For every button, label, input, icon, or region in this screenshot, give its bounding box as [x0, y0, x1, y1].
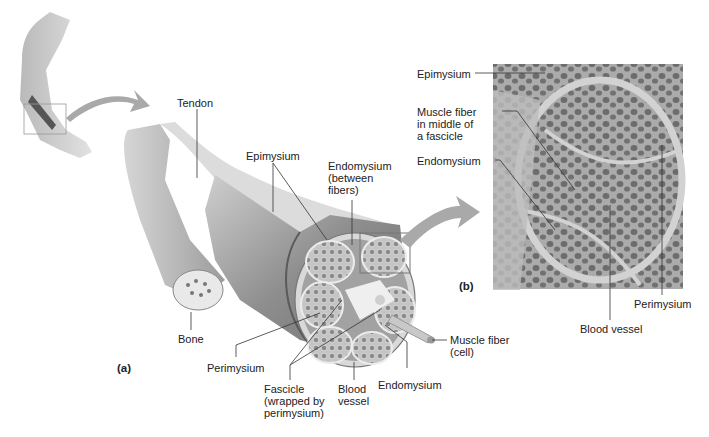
- label-epimysium-b: Epimysium: [417, 68, 471, 80]
- label-muscle-fiber-cell: Muscle fiber (cell): [450, 334, 509, 358]
- arrow-to-detail: [66, 90, 150, 122]
- label-endomysium-b: Endomysium: [417, 155, 481, 167]
- label-blood-vessel-a: Blood vessel: [338, 383, 369, 407]
- panel-a-label: (a): [117, 362, 131, 374]
- anatomy-illustration: [0, 0, 709, 437]
- arm-figure: [20, 12, 92, 158]
- label-tendon: Tendon: [177, 97, 213, 109]
- label-epimysium-a: Epimysium: [246, 150, 300, 162]
- label-perimysium-a: Perimysium: [207, 362, 264, 374]
- muscle-cross-section: [295, 233, 435, 367]
- label-endomysium-a: Endomysium: [378, 379, 442, 391]
- panel-b-label: (b): [459, 280, 474, 292]
- micrograph: [493, 64, 683, 290]
- label-perimysium-b: Perimysium: [634, 298, 691, 310]
- label-blood-vessel-b: Blood vessel: [580, 323, 642, 335]
- label-muscle-fiber-middle: Muscle fiber in middle of a fascicle: [417, 106, 476, 142]
- label-bone: Bone: [178, 333, 204, 345]
- label-fascicle: Fascicle (wrapped by perimysium): [264, 383, 325, 419]
- label-endomysium-between: Endomysium (between fibers): [328, 160, 392, 196]
- arrow-to-micrograph: [400, 196, 480, 248]
